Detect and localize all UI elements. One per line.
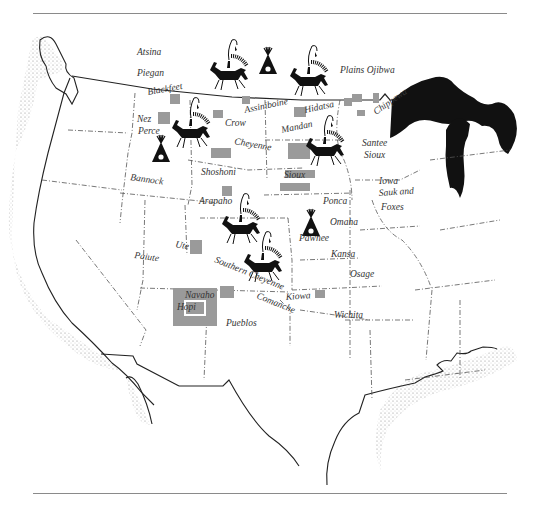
tribe-labels: Atsina Piegan Plains Ojibwa Blackfeet As…	[130, 47, 415, 328]
label-nez: Nez	[136, 114, 152, 124]
label-cheyenne: Cheyenne	[234, 136, 273, 152]
label-omaha: Omaha	[330, 217, 358, 227]
label-hidatsa: Hidatsa	[302, 99, 335, 115]
label-osage: Osage	[350, 269, 374, 279]
tipi-icon	[152, 135, 170, 162]
tipi-icon	[302, 209, 320, 236]
label-crow: Crow	[225, 118, 246, 128]
tipi-icon	[259, 47, 277, 74]
label-iowa: Iowa	[378, 176, 398, 186]
label-kiowa: Kiowa	[284, 290, 311, 302]
label-santee-sioux: Sioux	[364, 150, 386, 160]
label-ute: Ute	[175, 239, 190, 251]
label-shoshoni: Shoshoni	[201, 167, 236, 177]
label-wichita: Wichita	[334, 310, 363, 320]
horse-rider-icon	[210, 40, 248, 90]
state-boundaries	[42, 93, 510, 400]
label-foxes: Foxes	[380, 202, 404, 212]
map-canvas: Atsina Piegan Plains Ojibwa Blackfeet As…	[0, 0, 545, 510]
label-navaho: Navaho	[184, 290, 215, 300]
label-atsina: Atsina	[136, 47, 162, 57]
label-paiute: Paiute	[133, 250, 160, 263]
label-arapaho: Arapaho	[198, 196, 233, 206]
label-ponca: Ponca	[322, 196, 348, 206]
gulf-coast-stipple	[376, 346, 517, 470]
horse-rider-icon	[290, 46, 328, 96]
label-plains-ojibwa: Plains Ojibwa	[339, 65, 395, 75]
label-piegan: Piegan	[136, 68, 164, 78]
label-pueblos: Pueblos	[225, 318, 257, 328]
label-pawnee: Pawnee	[298, 233, 329, 243]
label-kansa: Kansa	[330, 249, 356, 259]
great-lakes	[390, 77, 517, 198]
pacific-coast-stipple	[9, 36, 150, 425]
label-bannock: Bannock	[130, 172, 165, 187]
label-mandan: Mandan	[279, 119, 313, 136]
label-perce: Perce	[137, 126, 160, 136]
label-sauk-and: Sauk and	[378, 186, 414, 198]
label-hopi: Hopi	[176, 302, 196, 312]
label-sioux: Sioux	[284, 170, 306, 180]
label-santee: Santee	[362, 138, 387, 148]
